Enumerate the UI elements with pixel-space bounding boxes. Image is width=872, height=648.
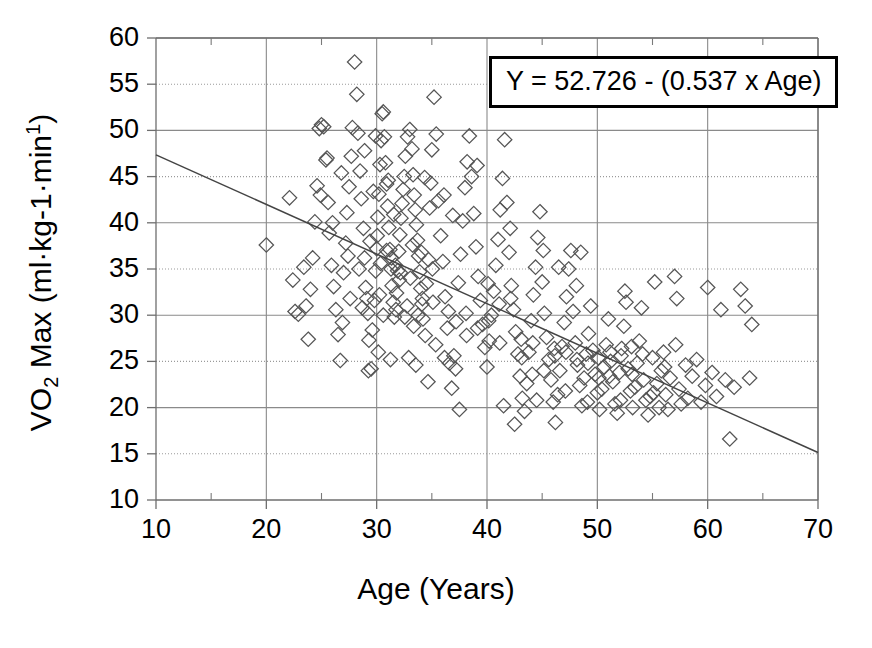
- data-point-diamond: [361, 306, 375, 320]
- data-point-diamond: [469, 240, 483, 254]
- data-point-diamond: [502, 245, 516, 259]
- data-point-diamond: [409, 358, 423, 372]
- data-point-diamond: [601, 312, 615, 326]
- data-point-diamond: [709, 389, 723, 403]
- data-point-diamond: [467, 206, 481, 220]
- data-point-diamond: [357, 144, 371, 158]
- data-point-diamond: [557, 315, 571, 329]
- data-point-diamond: [437, 188, 451, 202]
- data-point-diamond: [371, 345, 385, 359]
- data-point-diamond: [628, 380, 642, 394]
- data-point-diamond: [286, 273, 300, 287]
- data-point-diamond: [444, 381, 458, 395]
- data-point-diamond: [342, 180, 356, 194]
- y-tick-label: 35: [65, 255, 139, 282]
- data-point-diamond: [668, 338, 682, 352]
- data-point-diamond: [745, 317, 759, 331]
- data-point-diamond: [617, 319, 631, 333]
- data-point-diamond: [634, 301, 648, 315]
- data-point-diamond: [344, 149, 358, 163]
- regression-equation-annotation: Y = 52.726 - (0.537 x Age): [489, 56, 838, 108]
- data-point-diamond: [456, 214, 470, 228]
- data-point-diamond: [409, 217, 423, 231]
- data-point-diamond: [446, 208, 460, 222]
- data-point-diamond: [459, 306, 473, 320]
- x-tick-label: 30: [347, 516, 407, 543]
- data-point-diamond: [648, 275, 662, 289]
- data-point-diamond: [667, 269, 681, 283]
- data-point-diamond: [632, 334, 646, 348]
- data-point-diamond: [497, 132, 511, 146]
- data-point-diamond: [460, 155, 474, 169]
- data-point-diamond: [513, 369, 527, 383]
- data-point-diamond: [470, 321, 484, 335]
- data-point-diamond: [517, 404, 531, 418]
- data-point-diamond: [623, 384, 637, 398]
- data-point-diamond: [659, 387, 673, 401]
- data-point-diamond: [536, 243, 550, 257]
- data-point-diamond: [599, 338, 613, 352]
- y-tick-label: 50: [65, 116, 139, 143]
- data-point-diamond: [489, 258, 503, 272]
- data-point-diamond: [347, 55, 361, 69]
- data-point-diamond: [282, 191, 296, 205]
- data-point-diamond: [340, 205, 354, 219]
- y-title-sub: 2: [40, 377, 62, 388]
- x-tick-label: 60: [678, 516, 738, 543]
- data-point-diamond: [592, 402, 606, 416]
- data-point-diamond: [372, 288, 386, 302]
- data-point-diamond: [422, 201, 436, 215]
- x-axis-title: Age (Years): [0, 572, 872, 606]
- data-point-diamond: [433, 229, 447, 243]
- data-point-diamond: [504, 278, 518, 292]
- data-point-diamond: [581, 326, 595, 340]
- data-point-diamond: [421, 375, 435, 389]
- data-point-diamond: [742, 371, 756, 385]
- data-point-diamond: [453, 247, 467, 261]
- data-point-diamond: [410, 233, 424, 247]
- data-point-diamond: [428, 338, 442, 352]
- data-point-diamond: [535, 275, 549, 289]
- data-point-diamond: [425, 143, 439, 157]
- data-point-diamond: [398, 149, 412, 163]
- x-tick-label: 70: [788, 516, 848, 543]
- y-axis-title: VO2 Max (ml·kg-1·min1): [22, 13, 63, 533]
- y-tick-label: 40: [65, 209, 139, 236]
- data-point-diamond: [361, 363, 375, 377]
- data-point-diamond: [595, 382, 609, 396]
- data-points-layer: [259, 55, 759, 446]
- data-point-diamond: [718, 373, 732, 387]
- data-point-diamond: [459, 328, 473, 342]
- data-point-diamond: [301, 332, 315, 346]
- data-point-diamond: [336, 265, 350, 279]
- data-point-diamond: [381, 199, 395, 213]
- data-point-diamond: [515, 391, 529, 405]
- data-point-diamond: [355, 301, 369, 315]
- data-point-diamond: [738, 299, 752, 313]
- data-point-diamond: [491, 232, 505, 246]
- x-tick-label: 20: [236, 516, 296, 543]
- data-point-diamond: [734, 282, 748, 296]
- data-point-diamond: [383, 352, 397, 366]
- data-point-diamond: [452, 402, 466, 416]
- data-point-diamond: [533, 205, 547, 219]
- data-point-diamond: [584, 299, 598, 313]
- data-point-diamond: [367, 293, 381, 307]
- data-point-diamond: [351, 126, 365, 140]
- data-point-diamond: [496, 399, 510, 413]
- y-tick-label: 15: [65, 440, 139, 467]
- data-point-diamond: [528, 260, 542, 274]
- data-point-diamond: [303, 282, 317, 296]
- data-point-diamond: [333, 353, 347, 367]
- data-point-diamond: [431, 193, 445, 207]
- data-point-diamond: [341, 249, 355, 263]
- data-point-diamond: [500, 195, 514, 209]
- data-point-diamond: [334, 166, 348, 180]
- data-point-diamond: [321, 195, 335, 209]
- data-point-diamond: [403, 122, 417, 136]
- data-point-diamond: [531, 230, 545, 244]
- data-point-diamond: [670, 291, 684, 305]
- data-point-diamond: [639, 393, 653, 407]
- data-point-diamond: [635, 347, 649, 361]
- data-point-diamond: [641, 408, 655, 422]
